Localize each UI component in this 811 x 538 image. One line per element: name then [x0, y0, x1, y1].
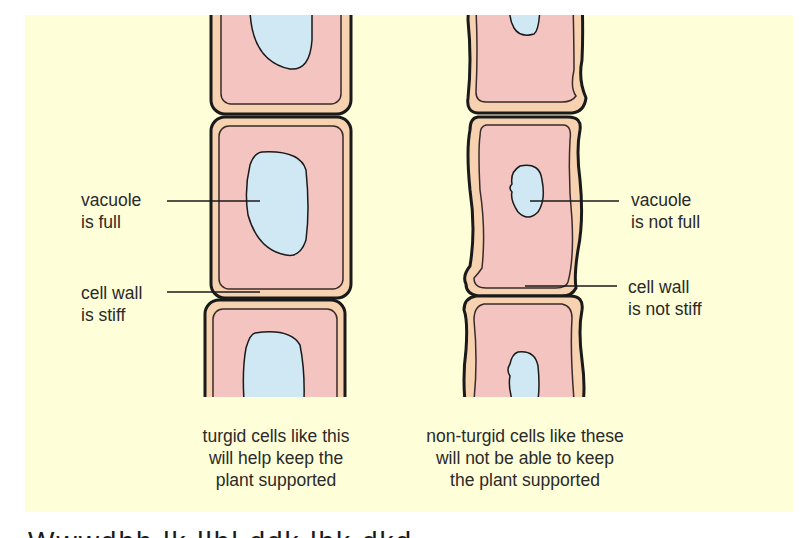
- label-cell-wall-stiff: cell wall is stiff: [81, 282, 142, 326]
- non-turgid-cell-top: [468, 0, 586, 113]
- cut-off-body-text: Wwwdhh lk llhl ddk lhk dkd: [28, 520, 728, 538]
- caption-non-turgid: non-turgid cells like these will not be …: [400, 425, 650, 491]
- turgid-cell-bottom: [205, 300, 345, 440]
- turgid-cell-top: [211, 0, 351, 114]
- non-turgid-cell-column: [464, 0, 586, 410]
- non-turgid-cell-bottom: [464, 296, 584, 410]
- caption-turgid: turgid cells like this will help keep th…: [176, 425, 376, 491]
- label-vacuole-full: vacuole is full: [81, 189, 141, 233]
- turgid-cell-middle: [211, 117, 351, 298]
- label-vacuole-not-full: vacuole is not full: [631, 189, 700, 233]
- label-cell-wall-not-stiff: cell wall is not stiff: [628, 276, 702, 320]
- turgid-cell-column: [205, 0, 351, 440]
- non-turgid-cell-middle: [465, 117, 582, 296]
